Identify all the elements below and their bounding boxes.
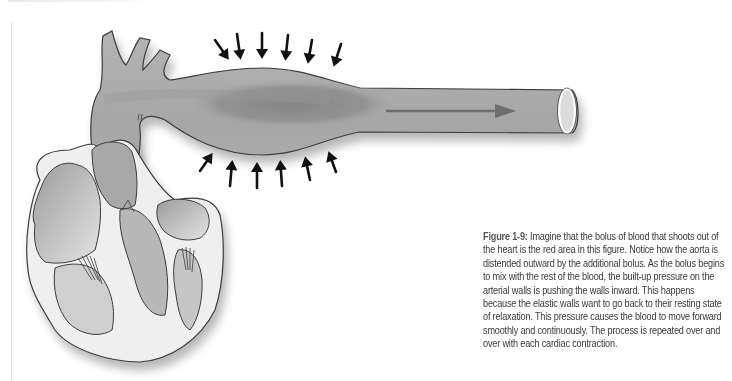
caption-text: Imagine that the bolus of blood that sho… xyxy=(483,230,724,349)
figure-caption: Figure 1-9: Imagine that the bolus of bl… xyxy=(483,230,728,351)
bolus-region xyxy=(187,80,397,128)
heart-icon xyxy=(27,140,224,362)
pressure-arrows-top-icon xyxy=(210,33,347,69)
figure-label: Figure 1-9: xyxy=(483,230,528,242)
